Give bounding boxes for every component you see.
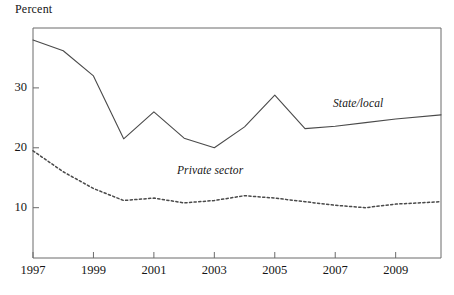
- plot-frame: [33, 28, 441, 258]
- x-tick-label: 2007: [310, 263, 360, 278]
- series-line-1: [33, 151, 441, 208]
- chart-page: Percent 10203019971999200120032005200720…: [0, 0, 454, 295]
- x-tick-label: 1999: [68, 263, 118, 278]
- series-label-state-local: State/local: [333, 97, 383, 109]
- plot-border: [33, 28, 441, 258]
- x-tick-label: 2009: [371, 263, 421, 278]
- y-tick-label: 30: [0, 80, 27, 95]
- x-tick-label: 2005: [250, 263, 300, 278]
- data-series: [33, 40, 441, 208]
- chart-plot-area: [0, 0, 454, 295]
- y-tick-label: 10: [0, 200, 27, 215]
- x-tick-label: 2001: [129, 263, 179, 278]
- series-line-0: [33, 40, 441, 148]
- x-tick-label: 1997: [8, 263, 58, 278]
- y-tick-label: 20: [0, 140, 27, 155]
- series-label-private-sector: Private sector: [177, 164, 243, 176]
- x-tick-label: 2003: [189, 263, 239, 278]
